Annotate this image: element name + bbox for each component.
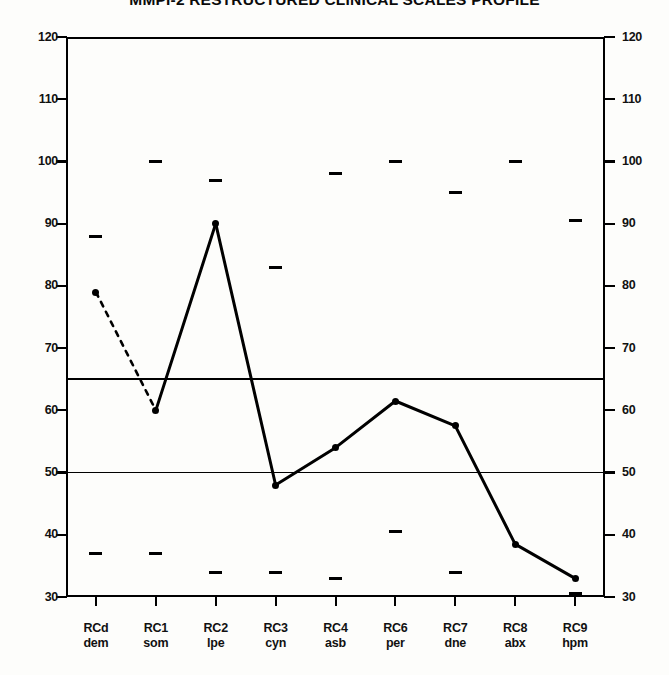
lower-ci-mark-rc1 (149, 552, 162, 555)
data-point-rc8 (512, 541, 519, 548)
series-line-layer (0, 0, 669, 675)
lower-ci-mark-rc9 (569, 592, 582, 595)
upper-ci-mark-rc8 (509, 160, 522, 163)
data-point-rc6 (392, 398, 399, 405)
upper-ci-mark-rc6 (389, 160, 402, 163)
upper-ci-mark-rcd (89, 235, 102, 238)
upper-ci-mark-rc9 (569, 219, 582, 222)
upper-ci-mark-rc7 (449, 191, 462, 194)
series-segment-rc4-to-rc6 (336, 401, 396, 448)
series-segment-rc6-to-rc7 (395, 401, 455, 426)
mmpi2-rc-profile-chart: MMPI-2 RESTRUCTURED CLINICAL SCALES PROF… (0, 0, 669, 675)
series-segment-rc8-to-rc9 (515, 544, 575, 578)
x-tick-mark-rc1 (155, 597, 157, 606)
x-axis-scale-code: RC9 (540, 621, 610, 636)
series-segment-rc3-to-rc4 (276, 448, 336, 485)
data-point-rc9 (572, 575, 579, 582)
x-tick-mark-rc8 (514, 597, 516, 606)
series-segment-rc2-to-rc3 (216, 224, 276, 485)
lower-ci-mark-rc7 (449, 571, 462, 574)
data-point-rc3 (272, 482, 279, 489)
x-tick-mark-rc4 (335, 597, 337, 606)
x-tick-mark-rc6 (394, 597, 396, 606)
upper-ci-mark-rc2 (209, 179, 222, 182)
x-tick-mark-rcd (95, 597, 97, 606)
lower-ci-mark-rc3 (269, 571, 282, 574)
lower-ci-mark-rcd (89, 552, 102, 555)
series-segment-rc1-to-rc2 (156, 224, 216, 411)
series-segment-rcd-to-rc1 (96, 292, 156, 410)
x-tick-mark-rc7 (454, 597, 456, 606)
x-axis-scale-abbr: hpm (540, 636, 610, 651)
lower-ci-mark-rc4 (329, 577, 342, 580)
x-tick-mark-rc2 (215, 597, 217, 606)
upper-ci-mark-rc3 (269, 266, 282, 269)
upper-ci-mark-rc1 (149, 160, 162, 163)
lower-ci-mark-rc6 (389, 530, 402, 533)
x-tick-mark-rc9 (574, 597, 576, 606)
x-tick-mark-rc3 (275, 597, 277, 606)
lower-ci-mark-rc2 (209, 571, 222, 574)
series-segment-rc7-to-rc8 (455, 426, 515, 544)
x-axis-label-rc9: RC9hpm (540, 621, 610, 651)
upper-ci-mark-rc4 (329, 172, 342, 175)
